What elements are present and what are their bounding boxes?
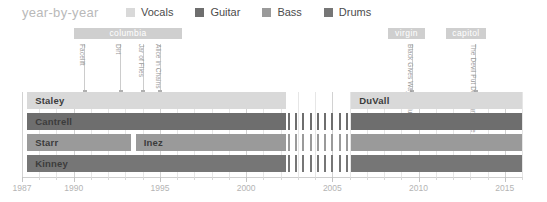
legend: VocalsGuitarBassDrums (126, 6, 393, 18)
hiatus-dash (324, 134, 326, 151)
axis-tick (91, 177, 92, 180)
hiatus-dash (324, 155, 326, 172)
hiatus-dash (310, 113, 312, 130)
hiatus-dash (295, 155, 297, 172)
hiatus-dash (331, 134, 333, 151)
axis-tick (315, 177, 316, 180)
axis-tick (350, 177, 351, 180)
legend-swatch-icon (126, 8, 135, 17)
axis-tick (212, 177, 213, 180)
member-segment-inez[interactable]: Inez (136, 134, 286, 151)
axis-tick (505, 177, 506, 182)
hiatus-dash (346, 155, 348, 172)
axis-tick (470, 177, 471, 180)
timeline-plot: StaleyDuVallCantrellStarrInezKinney (0, 92, 547, 177)
hiatus-dash (288, 155, 290, 172)
axis-tick (522, 177, 523, 180)
axis-tick (74, 177, 75, 182)
member-name: DuVall (359, 92, 389, 109)
axis-tick (39, 177, 40, 180)
member-name: Kinney (35, 155, 68, 172)
axis-tick (263, 177, 264, 180)
hiatus-dash (295, 113, 297, 130)
axis-tick (436, 177, 437, 180)
album-title: Alice in Chains (155, 44, 162, 89)
album-title: Dirt (115, 44, 122, 55)
axis-tick (108, 177, 109, 180)
axis-tick (194, 177, 195, 180)
legend-label: Bass (277, 6, 301, 18)
member-segment-duvall[interactable]: DuVall (351, 92, 522, 109)
member-name: Starr (35, 134, 58, 151)
axis-tick-label: 2005 (323, 183, 342, 193)
hiatus-dash (288, 113, 290, 130)
axis-tick (56, 177, 57, 180)
axis-tick-label: 2010 (409, 183, 428, 193)
axis-tick (453, 177, 454, 180)
member-segment-staley[interactable]: Staley (27, 92, 286, 109)
x-axis: 1987199019952000200520102015 (0, 177, 547, 202)
axis-tick (160, 177, 161, 182)
hiatus-dash (331, 155, 333, 172)
axis-tick (22, 177, 23, 182)
axis-tick (332, 177, 333, 182)
axis-tick-label: 1995 (150, 183, 169, 193)
axis-tick-label: 1990 (64, 183, 83, 193)
hiatus-dash (346, 113, 348, 130)
album-marker: Facelift (84, 44, 85, 92)
legend-item-bass: Bass (262, 6, 301, 18)
hiatus-dash (324, 113, 326, 130)
timeline-row-guitar: Cantrell (0, 113, 547, 130)
member-segment-starr[interactable]: Starr (27, 134, 130, 151)
legend-swatch-icon (195, 8, 204, 17)
axis-tick (229, 177, 230, 180)
hiatus-dash (346, 134, 348, 151)
hiatus-dash (302, 134, 304, 151)
legend-label: Guitar (210, 6, 240, 18)
legend-swatch-icon (262, 8, 271, 17)
label-band-capitol: capitol (446, 28, 486, 39)
member-segment[interactable] (351, 113, 522, 130)
axis-tick (143, 177, 144, 180)
album-marker: Jar of Flies (143, 44, 144, 92)
legend-item-guitar: Guitar (195, 6, 240, 18)
timeline-row-vocals: StaleyDuVall (0, 92, 547, 109)
legend-label: Vocals (141, 6, 173, 18)
album-marker: The Devil Put Dinosaurs Here (475, 44, 476, 92)
axis-tick (488, 177, 489, 180)
hiatus-dash (302, 113, 304, 130)
album-marker: Dirt (120, 44, 121, 92)
member-segment-cantrell[interactable]: Cantrell (27, 113, 286, 130)
hiatus-dash (310, 155, 312, 172)
member-name: Inez (144, 134, 163, 151)
axis-tick (384, 177, 385, 180)
album-title: Facelift (79, 44, 86, 66)
axis-tick-label: 2000 (237, 183, 256, 193)
member-name: Cantrell (35, 113, 72, 130)
member-segment[interactable] (351, 134, 522, 151)
timeline-row-drums: Kinney (0, 155, 547, 172)
hiatus-dash (339, 113, 341, 130)
member-segment-kinney[interactable]: Kinney (27, 155, 286, 172)
legend-item-vocals: Vocals (126, 6, 173, 18)
timeline-row-bass: StarrInez (0, 134, 547, 151)
hiatus-dash (339, 155, 341, 172)
axis-tick (419, 177, 420, 182)
hiatus-dash (295, 134, 297, 151)
album-marker: Alice in Chains (160, 44, 161, 92)
axis-tick (367, 177, 368, 180)
axis-tick (246, 177, 247, 182)
legend-swatch-icon (324, 8, 333, 17)
member-segment[interactable] (351, 155, 522, 172)
legend-item-drums: Drums (324, 6, 371, 18)
hiatus-dash (302, 155, 304, 172)
page-title: year-by-year (22, 5, 99, 20)
axis-tick (125, 177, 126, 180)
axis-tick (281, 177, 282, 180)
axis-tick-label: 2015 (495, 183, 514, 193)
legend-label: Drums (339, 6, 371, 18)
label-band-columbia: columbia (74, 28, 183, 39)
axis-line (22, 177, 522, 178)
axis-tick-label: 1987 (13, 183, 32, 193)
chart-header: year-by-year VocalsGuitarBassDrums (0, 0, 547, 26)
